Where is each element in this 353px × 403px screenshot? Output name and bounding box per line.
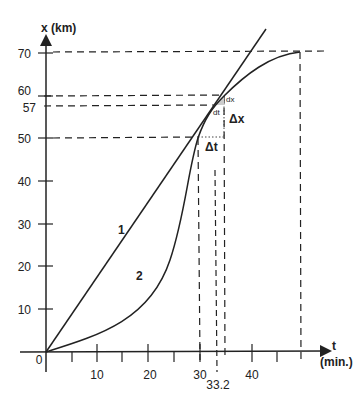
- svg-text:0: 0: [36, 353, 43, 367]
- y-tick-labels: 70 60 57 50 40 30 20 10: [18, 47, 37, 317]
- x-axis: [20, 351, 326, 352]
- x-ticks: [72, 344, 277, 362]
- x-tick-labels: 0 10 20 30 33.2 40: [36, 353, 259, 392]
- svg-text:20: 20: [143, 368, 157, 382]
- dx-label: dx: [226, 95, 234, 104]
- delta-t-label: Δt: [205, 140, 218, 154]
- vertical-reference-lines: [198, 52, 301, 372]
- svg-text:33.2: 33.2: [206, 378, 230, 392]
- svg-text:40: 40: [18, 175, 32, 189]
- curve-1: [46, 29, 266, 352]
- delta-x-label: Δx: [229, 112, 245, 126]
- curve-2-label: 2: [136, 269, 143, 283]
- x-axis-label: t: [332, 339, 336, 353]
- curve-2: [46, 52, 300, 352]
- svg-text:30: 30: [193, 368, 207, 382]
- svg-text:60: 60: [18, 84, 32, 98]
- dt-label: dt: [213, 108, 220, 117]
- y-axis-label: x (km): [41, 21, 76, 35]
- svg-text:40: 40: [245, 368, 259, 382]
- x-axis-unit: (min.): [320, 355, 353, 369]
- chart: x (km) t (min.) 70 60 57 50 40 30 20 10 …: [0, 0, 353, 403]
- curve-1-label: 1: [118, 223, 125, 237]
- svg-text:50: 50: [18, 132, 32, 146]
- svg-text:10: 10: [18, 303, 32, 317]
- horizontal-reference-lines: [44, 51, 325, 138]
- svg-text:70: 70: [18, 47, 32, 61]
- svg-text:57: 57: [23, 101, 37, 115]
- svg-text:20: 20: [18, 260, 32, 274]
- svg-text:10: 10: [90, 368, 104, 382]
- svg-text:30: 30: [18, 218, 32, 232]
